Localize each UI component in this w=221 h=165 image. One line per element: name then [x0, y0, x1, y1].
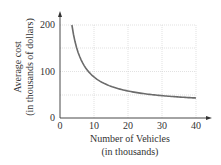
grid — [60, 25, 196, 118]
axes — [58, 11, 212, 120]
x-axis-label: Number of Vehicles (in thousands) — [90, 133, 170, 158]
x-tick-10: 10 — [89, 120, 99, 131]
cost-curve — [72, 25, 196, 98]
x-tick-20: 20 — [123, 120, 133, 131]
x-tick-0: 0 — [58, 120, 63, 131]
y-tick-0: 0 — [50, 112, 55, 123]
chart: 0 100 200 0 10 20 30 40 Number of Vehicl… — [0, 0, 221, 165]
y-tick-100: 100 — [40, 66, 55, 77]
y-label-line2: (in thousands of dollars) — [24, 18, 36, 116]
x-tick-30: 30 — [157, 120, 167, 131]
y-tick-200: 200 — [40, 19, 55, 30]
x-label-line1: Number of Vehicles — [90, 133, 170, 144]
y-axis-label: Average cost (in thousands of dollars) — [12, 18, 36, 116]
y-label-line1: Average cost — [12, 41, 23, 93]
x-tick-labels: 0 10 20 30 40 — [58, 120, 202, 131]
x-label-line2: (in thousands) — [102, 146, 159, 158]
y-tick-labels: 0 100 200 — [40, 19, 55, 123]
x-tick-40: 40 — [191, 120, 201, 131]
